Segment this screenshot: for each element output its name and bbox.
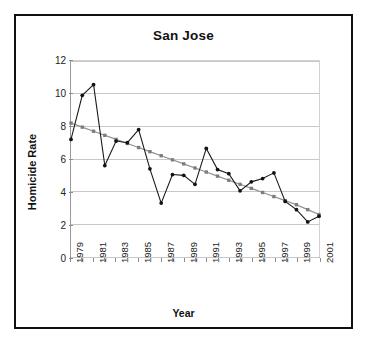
x-tick-mark [184, 258, 185, 262]
x-tick-mark [240, 258, 241, 262]
x-tick-label: 1995 [256, 242, 267, 263]
homicide-rate-series [69, 83, 321, 224]
x-tick-label: 1979 [74, 242, 85, 263]
data-point [317, 214, 321, 218]
x-tick-label: 1989 [188, 242, 199, 263]
data-point [159, 201, 163, 205]
data-point [238, 189, 242, 193]
x-tick-mark [206, 258, 207, 262]
x-tick-label: 1999 [301, 242, 312, 263]
figure-frame: San Jose Homicide Rate 024681012 1979198… [14, 14, 353, 329]
x-tick-mark [172, 258, 173, 262]
y-tick-label: 0 [32, 253, 66, 264]
data-point [216, 174, 219, 177]
y-tick-label: 2 [32, 220, 66, 231]
data-point [81, 125, 84, 128]
data-point [137, 128, 141, 132]
data-point [272, 195, 275, 198]
data-point [159, 154, 162, 157]
data-point [80, 93, 84, 97]
x-tick-mark [286, 258, 287, 262]
x-tick-mark [309, 258, 310, 262]
data-point [125, 141, 129, 145]
data-point [250, 187, 253, 190]
data-point [193, 182, 197, 186]
data-point [69, 121, 72, 124]
plot-area [70, 60, 320, 258]
x-tick-mark [320, 258, 321, 262]
data-point [171, 173, 175, 177]
y-tick-mark [69, 192, 73, 193]
chart-title: San Jose [16, 28, 351, 43]
x-tick-label: 1991 [210, 242, 221, 263]
x-tick-label: 1987 [165, 242, 176, 263]
data-point [92, 130, 95, 133]
data-point [204, 147, 208, 151]
x-tick-label: 1993 [233, 242, 244, 263]
data-point [182, 173, 186, 177]
data-point [261, 177, 265, 181]
data-point [103, 164, 107, 168]
data-point [227, 172, 231, 176]
x-tick-mark [275, 258, 276, 262]
x-tick-mark [70, 258, 71, 262]
y-tick-mark [69, 60, 73, 61]
y-tick-label: 12 [32, 55, 66, 66]
x-tick-mark [263, 258, 264, 262]
x-tick-mark [297, 258, 298, 262]
y-tick-label: 6 [32, 154, 66, 165]
data-point [193, 166, 196, 169]
x-tick-label: 2001 [324, 242, 335, 263]
data-point [182, 162, 185, 165]
data-point [227, 179, 230, 182]
data-point [103, 134, 106, 137]
trend-line-series [69, 121, 320, 216]
y-axis-tick-labels: 024681012 [30, 60, 66, 258]
data-point [148, 150, 151, 153]
x-tick-mark [218, 258, 219, 262]
series-path [71, 85, 319, 222]
data-point [148, 167, 152, 171]
x-tick-label: 1985 [142, 242, 153, 263]
data-point [238, 183, 241, 186]
y-tick-mark [69, 225, 73, 226]
x-tick-mark [138, 258, 139, 262]
data-point [69, 138, 73, 142]
data-point [171, 158, 174, 161]
y-tick-label: 8 [32, 121, 66, 132]
x-tick-mark [195, 258, 196, 262]
data-point [205, 170, 208, 173]
x-tick-mark [81, 258, 82, 262]
x-tick-mark [252, 258, 253, 262]
x-axis-label: Year [16, 307, 351, 319]
data-point [272, 171, 276, 175]
plot-svg [71, 61, 319, 257]
data-point [249, 180, 253, 184]
x-tick-mark [229, 258, 230, 262]
data-point [216, 168, 220, 172]
y-tick-mark [69, 126, 73, 127]
data-point [261, 191, 264, 194]
x-tick-label: 1983 [119, 242, 130, 263]
y-tick-label: 4 [32, 187, 66, 198]
data-point [283, 200, 287, 204]
x-tick-mark [115, 258, 116, 262]
data-point [137, 146, 140, 149]
x-tick-mark [150, 258, 151, 262]
data-point [295, 208, 299, 212]
x-tick-mark [161, 258, 162, 262]
x-tick-mark [93, 258, 94, 262]
data-point [295, 203, 298, 206]
chart-figure: San Jose Homicide Rate 024681012 1979198… [0, 0, 371, 349]
data-point [92, 83, 96, 87]
data-point [306, 208, 309, 211]
y-tick-mark [69, 93, 73, 94]
y-tick-label: 10 [32, 88, 66, 99]
x-tick-label: 1997 [279, 242, 290, 263]
y-tick-mark [69, 159, 73, 160]
data-point [306, 220, 310, 224]
x-tick-mark [127, 258, 128, 262]
x-tick-mark [104, 258, 105, 262]
x-tick-label: 1981 [97, 242, 108, 263]
data-point [114, 139, 118, 143]
